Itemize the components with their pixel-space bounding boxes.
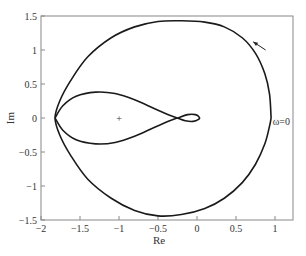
annotations: +ω=0 [116, 42, 290, 127]
y-tick-label: 1 [32, 45, 37, 56]
series-outer-loop [55, 21, 271, 217]
y-tick-label: 0.5 [25, 79, 38, 90]
critical-point-marker: + [116, 113, 122, 124]
y-tick-label: −0.5 [19, 147, 37, 158]
x-axis-label: Re [153, 234, 165, 246]
x-ticks: −2−1.5−1−0.500.51 [36, 216, 278, 234]
x-tick-label: −2 [36, 223, 47, 234]
y-tick-label: 1.5 [25, 11, 38, 22]
x-tick-label: −1 [114, 223, 125, 234]
x-tick-label: 1 [273, 223, 278, 234]
y-tick-label: −1 [26, 181, 37, 192]
y-tick-label: 0 [32, 113, 37, 124]
x-tick-label: 0.5 [230, 223, 243, 234]
x-tick-label: 0 [195, 223, 200, 234]
y-tick-label: −1.5 [19, 215, 37, 226]
omega-zero-label: ω=0 [273, 116, 290, 127]
series-group [55, 21, 271, 217]
nyquist-chart: −2−1.5−1−0.500.51 −1.5−1−0.500.511.5 +ω=… [0, 0, 306, 256]
series-inner-figure-eight [55, 92, 200, 144]
x-tick-label: −0.5 [149, 223, 167, 234]
plot-frame [41, 16, 293, 220]
direction-arrow-head [253, 42, 258, 46]
x-tick-label: −1.5 [71, 223, 89, 234]
y-axis-label: Im [4, 111, 16, 124]
